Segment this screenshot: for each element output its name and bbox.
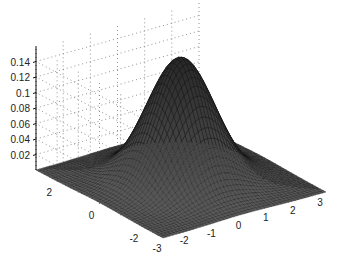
x-tick-label: -3 bbox=[153, 243, 162, 254]
surface-plot: 0.020.040.060.080.10.120.14-3-2-10123-20… bbox=[0, 0, 344, 256]
gaussian-surface bbox=[36, 57, 326, 238]
x-tick-label: 1 bbox=[263, 212, 269, 223]
z-tick-label: 0.08 bbox=[11, 103, 31, 114]
x-tick-label: 3 bbox=[317, 197, 323, 208]
x-tick-label: -1 bbox=[207, 228, 216, 239]
z-tick-label: 0.14 bbox=[11, 57, 31, 68]
y-tick-label: 2 bbox=[46, 187, 52, 198]
axes bbox=[33, 46, 36, 170]
x-tick-label: -2 bbox=[180, 235, 189, 246]
z-tick-label: 0.1 bbox=[16, 88, 30, 99]
z-tick-label: 0.12 bbox=[11, 72, 31, 83]
x-tick-label: 2 bbox=[290, 205, 296, 216]
z-tick-label: 0.02 bbox=[11, 150, 31, 161]
z-tick-label: 0.04 bbox=[11, 134, 31, 145]
y-tick-label: -2 bbox=[129, 233, 138, 244]
x-tick-label: 0 bbox=[236, 220, 242, 231]
y-tick-label: 0 bbox=[89, 210, 95, 221]
z-tick-label: 0.06 bbox=[11, 119, 31, 130]
